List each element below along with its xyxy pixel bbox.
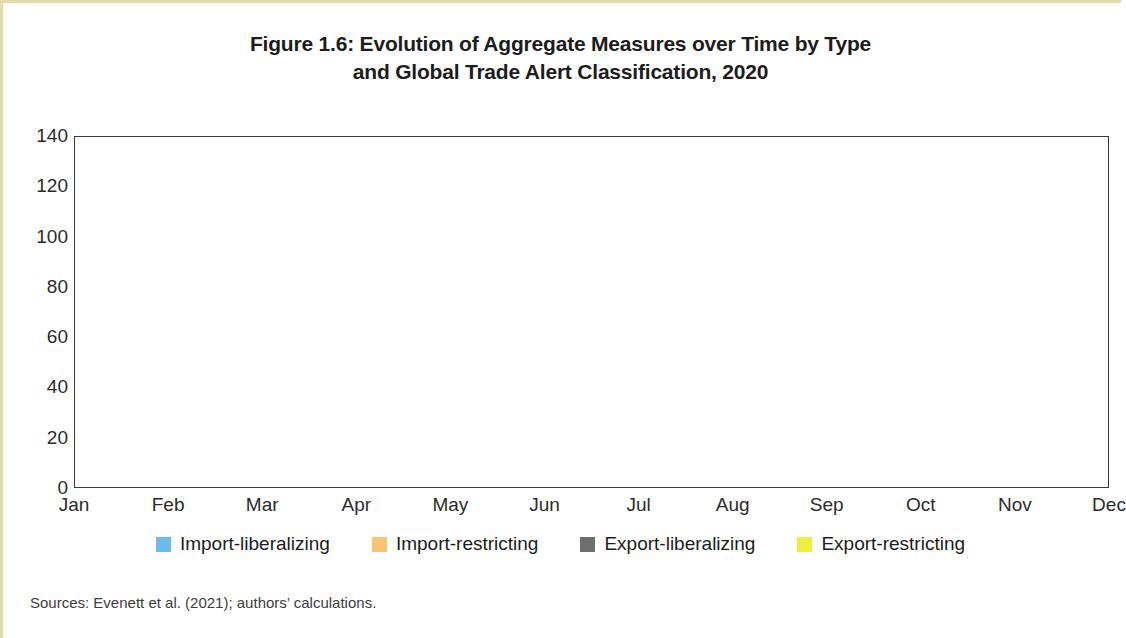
x-axis-tick-oct: Oct <box>906 494 936 516</box>
x-axis-tick-sep: Sep <box>810 494 844 516</box>
x-axis-tick-mar: Mar <box>246 494 279 516</box>
plot-frame-border <box>74 136 1109 488</box>
legend-label: Export-restricting <box>821 533 965 555</box>
x-axis-tick-jun: Jun <box>529 494 560 516</box>
x-axis-tick-aug: Aug <box>716 494 750 516</box>
y-axis-tick-120: 120 <box>8 175 68 197</box>
legend-swatch-export-liberalizing <box>580 537 595 552</box>
plot-area <box>74 136 1109 488</box>
legend-swatch-import-liberalizing <box>156 537 171 552</box>
legend-label: Import-liberalizing <box>180 533 330 555</box>
y-axis-tick-100: 100 <box>8 226 68 248</box>
x-axis-tick-jul: Jul <box>626 494 650 516</box>
legend-item-import-restricting[interactable]: Import-restricting <box>372 533 539 555</box>
figure-title-line-2: and Global Trade Alert Classification, 2… <box>0 58 1121 86</box>
y-axis-tick-80: 80 <box>8 276 68 298</box>
x-axis-tick-nov: Nov <box>998 494 1032 516</box>
x-axis-tick-jan: Jan <box>59 494 90 516</box>
legend-label: Export-liberalizing <box>604 533 755 555</box>
y-axis-tick-20: 20 <box>8 427 68 449</box>
legend-label: Import-restricting <box>396 533 539 555</box>
figure-title-line-1: Figure 1.6: Evolution of Aggregate Measu… <box>0 30 1121 58</box>
x-axis-tick-apr: Apr <box>341 494 371 516</box>
figure-title: Figure 1.6: Evolution of Aggregate Measu… <box>0 30 1121 87</box>
legend-item-import-liberalizing[interactable]: Import-liberalizing <box>156 533 330 555</box>
y-axis-tick-60: 60 <box>8 326 68 348</box>
x-axis-tick-labels: JanFebMarAprMayJunJulAugSepOctNovDec <box>74 494 1109 528</box>
legend-swatch-import-restricting <box>372 537 387 552</box>
y-axis-tick-140: 140 <box>8 125 68 147</box>
source-note: Sources: Evenett et al. (2021); authors’… <box>30 594 376 611</box>
chart-legend: Import-liberalizingImport-restrictingExp… <box>0 533 1121 555</box>
x-axis-tick-feb: Feb <box>152 494 185 516</box>
legend-swatch-export-restricting <box>797 537 812 552</box>
y-axis-tick-40: 40 <box>8 376 68 398</box>
x-axis-tick-dec: Dec <box>1092 494 1126 516</box>
legend-item-export-liberalizing[interactable]: Export-liberalizing <box>580 533 755 555</box>
legend-item-export-restricting[interactable]: Export-restricting <box>797 533 965 555</box>
x-axis-tick-may: May <box>432 494 468 516</box>
